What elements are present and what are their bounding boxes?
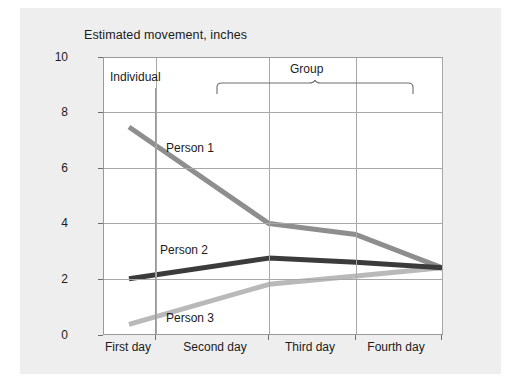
vgridline-third-day xyxy=(356,58,357,334)
individual-group-divider xyxy=(155,88,156,335)
x-axis-label-second-day: Second day xyxy=(160,340,270,354)
chart-page: Estimated movement, inches 10 8 6 4 2 0 … xyxy=(0,0,517,382)
plot-area xyxy=(103,57,443,335)
vgridline-fourth-day xyxy=(442,58,443,334)
series-label-person-3: Person 3 xyxy=(166,311,214,325)
y-tick-label-4: 4 xyxy=(28,216,68,230)
chart-caption: Estimated movement, inches xyxy=(84,28,247,42)
y-tick-label-8: 8 xyxy=(28,105,68,119)
x-axis-label-fourth-day: Fourth day xyxy=(341,340,451,354)
vgridline-first-day xyxy=(156,58,157,334)
series-label-person-2: Person 2 xyxy=(160,243,208,257)
y-tick-label-6: 6 xyxy=(28,161,68,175)
annotation-individual: Individual xyxy=(110,70,161,84)
series-line-person-2 xyxy=(129,258,442,279)
group-bracket-icon xyxy=(216,80,414,94)
y-tick-label-0: 0 xyxy=(28,328,68,342)
vgridline-second-day xyxy=(269,58,270,334)
series-label-person-1: Person 1 xyxy=(166,141,214,155)
y-tick-mark-0 xyxy=(98,335,103,336)
y-tick-label-2: 2 xyxy=(28,272,68,286)
y-tick-label-10: 10 xyxy=(28,50,68,64)
annotation-group: Group xyxy=(290,62,323,76)
